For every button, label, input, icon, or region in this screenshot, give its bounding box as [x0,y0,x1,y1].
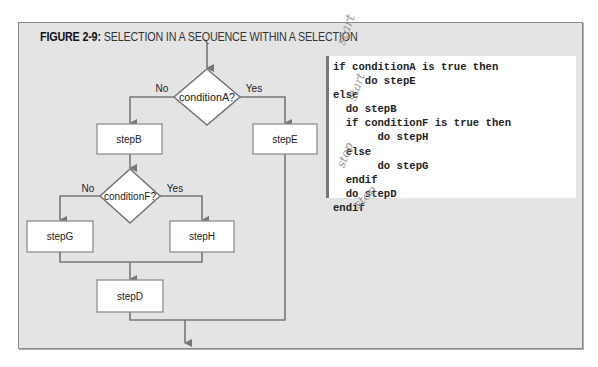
code-line: if conditionF is true then [333,117,511,129]
condition-f-no-label: No [82,183,95,194]
inner-merge-line [60,252,202,262]
step-g-label: stepG [47,231,74,242]
step-e-label: stepE [272,134,298,145]
code-line: do stepE [333,75,416,87]
condition-f-no-arrow [60,196,100,220]
condition-a-yes-arrow [240,97,285,123]
condition-a-no-label: No [156,83,169,94]
step-d-label: stepD [117,291,143,302]
condition-f-yes-label: Yes [167,183,183,194]
condition-f-text: conditionF? [104,191,156,202]
step-b-label: stepB [116,134,142,145]
code-line: do stepB [333,103,397,115]
condition-f-yes-arrow [160,196,202,220]
condition-a-no-arrow [130,97,174,123]
condition-a-text: conditionA? [179,92,235,103]
condition-a-yes-label: Yes [246,83,262,94]
step-h-label: stepH [189,231,215,242]
